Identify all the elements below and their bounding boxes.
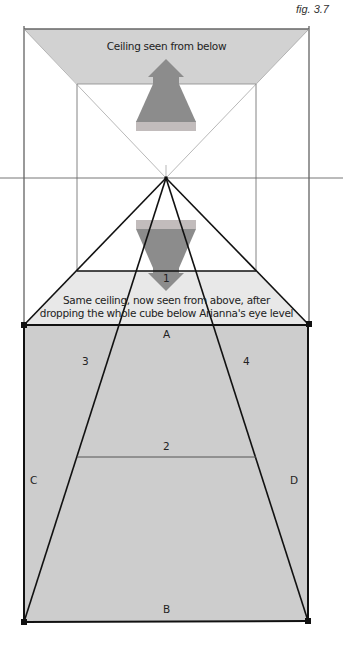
caption-ceiling-below: Ceiling seen from below [60,40,273,53]
corner-marker-top-left [21,322,27,328]
marker-1: 1 [163,272,170,284]
marker-3: 3 [82,355,89,367]
marker-b: B [163,603,170,615]
line-b [24,621,308,622]
marker-a: A [163,328,170,340]
corner-marker-top-right [306,321,312,327]
marker-4: 4 [243,355,250,367]
corner-marker-bottom-left [21,619,27,625]
caption-ceiling-above-line1: Same ceiling, now seen from above, after [30,294,303,307]
floor-area [24,325,309,622]
figure-label: fig. 3.7 [296,3,329,15]
marker-2: 2 [163,440,170,452]
caption-ceiling-above-line2: dropping the whole cube below Arianna's … [20,307,313,320]
marker-c: C [30,474,37,486]
perspective-diagram [0,0,343,646]
marker-d: D [290,474,298,486]
corner-marker-bottom-right [305,618,311,624]
